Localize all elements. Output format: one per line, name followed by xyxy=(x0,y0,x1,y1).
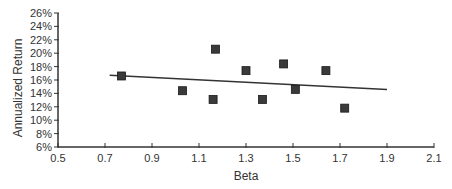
y-tick-label: 12% xyxy=(30,101,52,113)
trendline-line xyxy=(110,75,387,89)
y-tick-label: 10% xyxy=(30,114,52,126)
y-axis-title: Annualized Return xyxy=(11,39,25,138)
data-point-square xyxy=(341,104,349,112)
x-tick-label: 1.5 xyxy=(285,152,300,164)
trendline xyxy=(110,75,387,89)
scatter-chart: 6%8%10%12%14%16%18%20%22%24%26% 0.50.70.… xyxy=(0,0,452,189)
data-point-square xyxy=(117,72,125,80)
data-points xyxy=(117,45,348,112)
x-tick-label: 1.1 xyxy=(191,152,206,164)
x-axis-title: Beta xyxy=(234,169,259,183)
y-tick-label: 24% xyxy=(30,20,52,32)
data-point-square xyxy=(242,67,250,75)
x-tick-label: 0.9 xyxy=(144,152,159,164)
y-tick-label: 20% xyxy=(30,47,52,59)
x-axis: 0.50.70.91.11.31.51.71.92.1 xyxy=(50,143,441,164)
x-tick-label: 1.9 xyxy=(379,152,394,164)
y-tick-label: 22% xyxy=(30,34,52,46)
y-tick-label: 8% xyxy=(36,128,52,140)
data-point-square xyxy=(291,85,299,93)
y-tick-label: 26% xyxy=(30,7,52,19)
y-tick-label: 14% xyxy=(30,87,52,99)
y-axis: 6%8%10%12%14%16%18%20%22%24%26% xyxy=(30,7,59,153)
y-tick-label: 18% xyxy=(30,61,52,73)
data-point-square xyxy=(209,95,217,103)
data-point-square xyxy=(258,95,266,103)
data-point-square xyxy=(280,60,288,68)
x-tick-label: 1.3 xyxy=(238,152,253,164)
x-tick-label: 0.7 xyxy=(97,152,112,164)
x-tick-label: 1.7 xyxy=(332,152,347,164)
data-point-square xyxy=(179,87,187,95)
y-tick-label: 16% xyxy=(30,74,52,86)
x-tick-label: 0.5 xyxy=(50,152,65,164)
x-tick-label: 2.1 xyxy=(426,152,441,164)
data-point-square xyxy=(211,45,219,53)
data-point-square xyxy=(322,67,330,75)
